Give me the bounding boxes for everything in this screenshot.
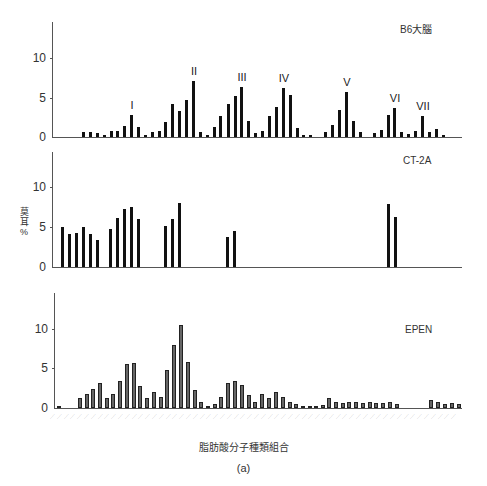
bar	[400, 132, 403, 137]
y-tickmark	[52, 368, 55, 369]
x-tick-label: ·····	[449, 412, 457, 420]
y-tick-5: 5	[26, 91, 46, 105]
panel-title: B6大腦	[400, 21, 432, 36]
bar	[206, 135, 209, 137]
bar	[296, 128, 299, 137]
bar	[159, 397, 163, 408]
bar	[130, 207, 133, 267]
y-tick-5: 5	[28, 361, 48, 375]
bar	[268, 116, 271, 137]
bar	[442, 135, 445, 137]
bar	[138, 386, 142, 408]
bar	[82, 227, 85, 267]
bar	[82, 132, 85, 137]
figure-caption: (a)	[0, 462, 487, 474]
bar	[164, 226, 167, 267]
bar	[199, 132, 202, 137]
bar	[338, 110, 341, 137]
bar	[118, 381, 122, 408]
bar	[178, 111, 181, 137]
bar	[186, 362, 190, 408]
peak-label: III	[237, 71, 246, 83]
bar	[185, 100, 188, 137]
peak-label: VI	[390, 92, 400, 104]
y-label-char: %	[18, 227, 30, 237]
bar	[116, 131, 119, 137]
bar	[206, 406, 210, 408]
bar	[227, 104, 230, 137]
y-axis	[54, 293, 55, 408]
bar	[436, 402, 440, 408]
bar	[260, 394, 264, 408]
bar	[233, 381, 237, 408]
bar	[89, 132, 92, 137]
bar	[137, 127, 140, 137]
bar	[192, 81, 195, 137]
peak-label: V	[343, 76, 350, 88]
bar	[368, 402, 372, 408]
bar	[428, 132, 431, 137]
bar	[233, 231, 236, 267]
bar	[110, 131, 113, 137]
y-tickmark	[52, 329, 55, 330]
bar	[226, 383, 230, 408]
bar	[281, 397, 285, 408]
bar	[309, 135, 312, 137]
bar	[164, 122, 167, 137]
bar	[247, 395, 251, 408]
bar	[132, 363, 136, 408]
bar	[387, 204, 390, 267]
bar	[331, 125, 334, 137]
bar	[253, 402, 257, 408]
bar	[75, 233, 78, 267]
bar	[247, 121, 250, 137]
bar	[381, 403, 385, 408]
bar	[96, 133, 99, 137]
bar	[282, 88, 285, 137]
y-axis	[52, 22, 53, 137]
bar	[294, 404, 298, 408]
x-axis	[52, 137, 462, 138]
bar	[373, 133, 376, 137]
peak-label: II	[191, 65, 197, 77]
x-axis	[54, 408, 462, 409]
bar	[275, 107, 278, 137]
bar	[387, 115, 390, 137]
bar	[123, 209, 126, 267]
bar	[68, 234, 71, 267]
y-tickmark	[50, 187, 53, 188]
bar	[347, 402, 351, 408]
bar	[443, 404, 447, 408]
bar	[301, 406, 305, 408]
bar	[125, 364, 129, 408]
bar	[374, 403, 378, 408]
bar	[199, 402, 203, 408]
bar	[421, 116, 424, 137]
bar	[321, 405, 325, 408]
bar	[152, 392, 156, 408]
bar	[172, 345, 176, 408]
y-tick-0: 0	[26, 130, 46, 144]
bar	[354, 402, 358, 408]
peak-label: VII	[416, 100, 429, 112]
bar	[288, 402, 292, 408]
y-tick-10: 10	[28, 322, 48, 336]
bar	[240, 385, 244, 408]
bar	[254, 133, 257, 137]
bar	[144, 135, 147, 137]
bar	[450, 403, 454, 408]
bar	[289, 95, 292, 137]
bar	[240, 87, 243, 137]
y-label-char: 耳	[18, 217, 30, 227]
bar	[165, 370, 169, 408]
bar	[151, 132, 154, 137]
bar	[429, 400, 433, 408]
y-tick-0: 0	[28, 401, 48, 415]
bar	[234, 96, 237, 137]
bar	[395, 404, 399, 408]
bar	[380, 130, 383, 137]
bar	[179, 325, 183, 408]
x-axis	[52, 267, 462, 268]
bar	[414, 131, 417, 137]
panel-title: CT-2A	[403, 155, 431, 166]
